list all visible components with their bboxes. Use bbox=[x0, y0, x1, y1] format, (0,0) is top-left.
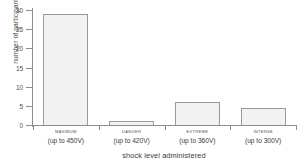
bar bbox=[241, 108, 286, 125]
y-tick-label: 10 bbox=[0, 83, 23, 90]
y-tick-label: 25 bbox=[0, 26, 23, 33]
category-label: INTENSE(up to 300V) bbox=[230, 129, 296, 145]
category-label-name: MAXIMUM bbox=[33, 129, 99, 135]
category-label-voltage: (up to 360V) bbox=[165, 136, 231, 145]
category-label-voltage: (up to 420V) bbox=[99, 136, 165, 145]
category-label-voltage: (up to 450V) bbox=[33, 136, 99, 145]
x-axis-line bbox=[30, 125, 297, 126]
y-tick-mark bbox=[26, 48, 32, 49]
y-tick-mark bbox=[26, 29, 32, 30]
y-tick-label: 30 bbox=[0, 7, 23, 14]
category-label: MAXIMUM(up to 450V) bbox=[33, 129, 99, 145]
category-label: EXTREME(up to 360V) bbox=[165, 129, 231, 145]
category-label: DANGER(up to 420V) bbox=[99, 129, 165, 145]
bar bbox=[43, 14, 88, 125]
category-label-name: DANGER bbox=[99, 129, 165, 135]
bar bbox=[109, 121, 154, 125]
y-tick-label: 0 bbox=[0, 122, 23, 129]
y-tick-mark bbox=[26, 87, 32, 88]
category-label-name: EXTREME bbox=[165, 129, 231, 135]
y-tick-mark bbox=[26, 10, 32, 11]
category-label-voltage: (up to 300V) bbox=[230, 136, 296, 145]
category-label-name: INTENSE bbox=[230, 129, 296, 135]
y-tick-label: 5 bbox=[0, 102, 23, 109]
bar-chart: number of participants 051015202530 MAXI… bbox=[0, 0, 303, 167]
y-tick-mark bbox=[26, 106, 32, 107]
bar bbox=[175, 102, 220, 125]
y-tick-label: 15 bbox=[0, 64, 23, 71]
x-tick-mark bbox=[296, 126, 297, 130]
y-tick-mark bbox=[26, 68, 32, 69]
y-tick-label: 20 bbox=[0, 45, 23, 52]
y-tick-mark bbox=[26, 125, 32, 126]
y-axis-line bbox=[32, 8, 33, 127]
x-axis-title: shock level administered bbox=[28, 151, 300, 160]
